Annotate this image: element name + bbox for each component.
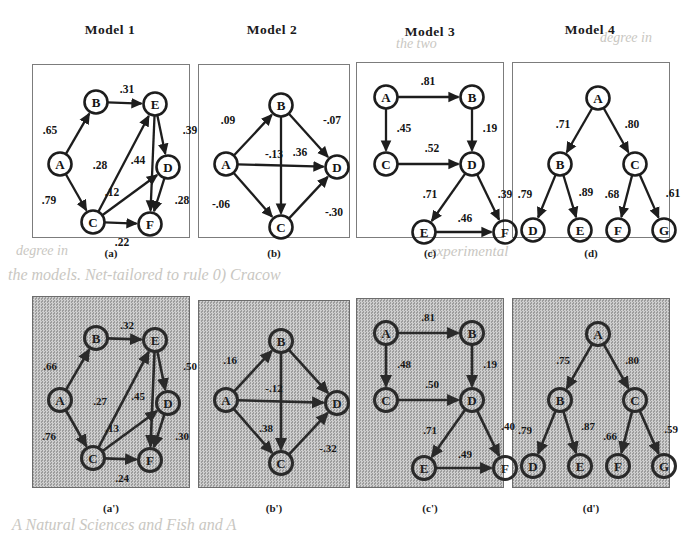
edge-D-F (477, 174, 499, 220)
edge-D-F (154, 414, 164, 447)
caption-a-prime: (a') (31, 502, 191, 514)
node-label-E: E (420, 461, 429, 476)
graph-model-3-c: ABCDEF.81.45.19.52.71.39.46 (362, 72, 504, 254)
graph-model-3-c-prime: ABCDEF.81.48.19.50.71.40.49 (362, 308, 504, 490)
edge-A-B (66, 114, 89, 154)
node-label-D: D (528, 459, 537, 474)
node-label-A: A (381, 90, 391, 105)
edge-D-F (154, 178, 164, 211)
edge-weight-A-B: .81 (421, 75, 436, 87)
edge-weight-B-D: -.07 (323, 114, 341, 126)
edge-weight-B-D: .79 (518, 424, 532, 436)
edge-D-F (477, 410, 499, 456)
node-label-D: D (467, 393, 476, 408)
edge-weight-A-C: .80 (625, 354, 639, 366)
node-label-E: E (151, 333, 160, 348)
edge-weight-D-F: .39 (498, 188, 513, 200)
node-label-D: D (163, 396, 172, 411)
edge-B-E (107, 102, 141, 103)
edge-weight-C-F: .24 (115, 472, 129, 484)
edge-B-D (538, 411, 556, 454)
node-label-A: A (381, 326, 391, 341)
edge-weight-C-F: .66 (603, 430, 617, 442)
edge-E-F (151, 351, 155, 446)
edge-weight-C-D: .13 (105, 422, 119, 434)
edge-weight-C-D: -.32 (319, 442, 337, 454)
node-label-A: A (221, 393, 231, 408)
edge-weight-E-F: .46 (458, 212, 473, 224)
node-label-B: B (468, 90, 477, 105)
edge-weight-C-D: .52 (425, 142, 440, 154)
edge-weight-A-C: .76 (42, 430, 56, 442)
edge-weight-A-C: .45 (397, 122, 412, 134)
edge-weight-A-B: .81 (421, 311, 435, 323)
node-label-G: G (659, 459, 669, 474)
node-label-C: C (88, 215, 97, 230)
model-title-2: Model 2 (192, 22, 352, 38)
model-title-3: Model 3 (350, 24, 510, 40)
edge-weight-C-D: -.30 (325, 206, 343, 218)
edge-weight-C-D: .50 (425, 378, 439, 390)
graph-model-4-d-prime: ABCDEFG.75.80.79.87.66.59 (518, 308, 668, 490)
edge-weight-C-G: .59 (664, 423, 678, 435)
edge-C-F (621, 175, 632, 217)
edge-B-E (563, 175, 576, 217)
graph-model-1-a-prime: ABCDEF.66.32.76.27.13.50.45.30.24 (38, 308, 188, 490)
edge-weight-A-C: .80 (625, 118, 640, 130)
edge-A-C (66, 410, 87, 446)
node-label-D: D (163, 160, 172, 175)
bleed-text-4: A Natural Sciences and Fish and A (12, 516, 236, 534)
edge-weight-E-F: .44 (131, 154, 146, 166)
edge-B-E (107, 338, 141, 339)
edge-weight-E-D: .50 (183, 360, 197, 372)
node-label-B: B (92, 331, 101, 346)
node-label-E: E (420, 225, 429, 240)
node-label-A: A (55, 157, 65, 172)
edge-weight-C-F: .22 (115, 236, 130, 248)
edge-A-C (604, 108, 629, 152)
edge-A-B (66, 350, 89, 390)
edge-A-B (567, 344, 593, 388)
graph-model-2-b: ABCD.09-.07-.13.36-.06-.30 (204, 72, 350, 254)
edge-E-D (157, 351, 165, 390)
caption-c-prime: (c') (350, 502, 510, 514)
node-label-A: A (221, 157, 231, 172)
node-label-C: C (88, 451, 97, 466)
model-title-4: Model 4 (510, 22, 670, 38)
edge-weight-D-F: .30 (175, 430, 189, 442)
edge-weight-B-E: .31 (120, 83, 135, 95)
node-label-B: B (556, 157, 565, 172)
edge-weight-A-B: .71 (556, 118, 571, 130)
edge-weight-B-D: .79 (518, 188, 533, 200)
edge-C-G (640, 175, 659, 218)
node-label-D: D (467, 157, 476, 172)
edge-E-D (157, 115, 165, 154)
edge-C-F (104, 458, 136, 459)
edge-B-D (289, 350, 328, 393)
edge-B-E (563, 411, 576, 453)
edge-weight-A-C: .79 (42, 194, 57, 206)
edge-weight-A-C: .48 (397, 358, 411, 370)
node-label-F: F (501, 461, 509, 476)
edge-weight-C-F: .68 (605, 188, 620, 200)
node-label-C: C (381, 157, 390, 172)
edge-weight-C-E: .28 (93, 159, 108, 171)
caption-d-prime: (d') (511, 502, 671, 514)
edge-weight-A-D: -.12 (265, 382, 283, 394)
edge-weight-B-D: .19 (483, 358, 497, 370)
edge-weight-B-E: .87 (581, 420, 595, 432)
node-label-D: D (332, 396, 341, 411)
node-label-D: D (528, 223, 537, 238)
edge-A-C (234, 173, 273, 217)
graph-model-1-a: ABCDEF.65.31.79.28.12.39.44.28.22 (38, 72, 188, 254)
edge-weight-A-B: .16 (223, 354, 237, 366)
edge-C-F (621, 411, 632, 453)
node-label-E: E (151, 97, 160, 112)
node-label-B: B (92, 95, 101, 110)
node-label-B: B (556, 393, 565, 408)
edge-weight-B-C: .38 (259, 422, 273, 434)
edge-weight-B-E: .89 (579, 186, 594, 198)
edge-weight-C-E: .27 (93, 395, 107, 407)
edge-weight-E-D: .39 (183, 124, 198, 136)
edge-C-D (289, 177, 328, 219)
